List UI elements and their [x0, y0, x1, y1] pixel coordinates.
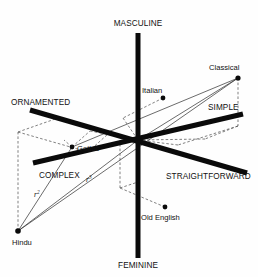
data-point-italian[interactable]	[161, 96, 166, 101]
data-point-gothic[interactable]	[70, 145, 75, 150]
axis-label-straightforward: STRAIGHTFORWARD	[166, 172, 251, 181]
point-label-italian: Italian	[142, 86, 162, 95]
data-point-hindu[interactable]	[15, 228, 21, 234]
annotation-r-cubed-exponent: 3	[89, 174, 92, 180]
axes-diagram: MASCULINE FEMININE ORNAMENTED STRAIGHTFO…	[0, 0, 258, 277]
axis-label-simple: SIMPLE	[208, 103, 239, 112]
point-label-classical: Classical	[209, 63, 240, 72]
diagram-canvas: MASCULINE FEMININE ORNAMENTED STRAIGHTFO…	[0, 0, 258, 277]
axis-label-ornamented: ORNAMENTED	[11, 98, 70, 107]
old-english-projection	[120, 140, 165, 207]
point-label-old-english: Old English	[141, 213, 180, 222]
point-labels-group: Classical Italian Gothic Old English Hin…	[12, 63, 240, 247]
point-label-gothic: Gothic	[77, 144, 99, 153]
annotation-r-squared: r2	[34, 189, 40, 199]
annotation-r-squared-exponent: 2	[37, 189, 40, 195]
axis-label-complex: COMPLEX	[39, 171, 80, 180]
axis-label-feminine: FEMININE	[118, 261, 158, 270]
data-point-classical[interactable]	[235, 75, 240, 80]
point-label-hindu: Hindu	[12, 238, 32, 247]
annotation-r-cubed: r3	[86, 174, 92, 184]
axis-labels-group: MASCULINE FEMININE ORNAMENTED STRAIGHTFO…	[11, 19, 251, 270]
data-point-old-english[interactable]	[163, 205, 168, 210]
axis-label-masculine: MASCULINE	[114, 19, 163, 28]
